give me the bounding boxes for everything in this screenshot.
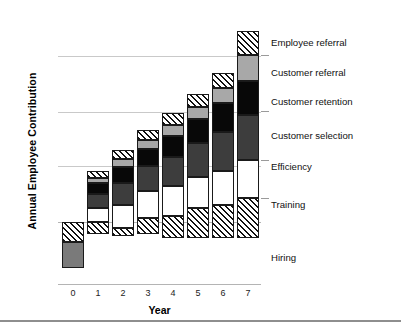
legend-label-customer-referral: Customer referral (271, 67, 346, 78)
x-tick-1: 1 (86, 288, 110, 298)
segment-employee-referral[interactable] (237, 31, 259, 55)
segment-training[interactable] (187, 208, 209, 238)
segment-customer-retention[interactable] (87, 183, 109, 194)
segment-customer-retention[interactable] (237, 81, 259, 115)
x-tick-5: 5 (186, 288, 210, 298)
segment-training[interactable] (112, 228, 134, 236)
gridline-1 (58, 56, 261, 57)
x-tick-4: 4 (161, 288, 185, 298)
segment-customer-selection[interactable] (162, 157, 184, 186)
segment-efficiency[interactable] (87, 208, 109, 222)
segment-efficiency[interactable] (237, 160, 259, 198)
leader-line-training (261, 198, 269, 199)
segment-employee-referral[interactable] (87, 171, 109, 178)
x-tick-3: 3 (136, 288, 160, 298)
legend-label-employee-referral: Employee referral (271, 37, 347, 48)
segment-training[interactable] (162, 216, 184, 238)
segment-training[interactable] (237, 198, 259, 238)
leader-line-customer-selection (261, 111, 269, 112)
plot-area: 0 1 2 3 4 5 6 7 Year (58, 20, 261, 302)
segment-training[interactable] (62, 222, 84, 242)
segment-customer-referral[interactable] (112, 159, 134, 167)
segment-customer-retention[interactable] (137, 149, 159, 166)
legend-label-efficiency: Efficiency (271, 161, 312, 172)
legend-label-customer-selection: Customer selection (271, 130, 353, 141)
bottom-rule (0, 320, 401, 322)
x-tick-7: 7 (236, 288, 260, 298)
segment-employee-referral[interactable] (137, 130, 159, 140)
segment-customer-retention[interactable] (112, 167, 134, 183)
leader-line-efficiency (261, 160, 269, 161)
segment-customer-selection[interactable] (137, 166, 159, 191)
segment-customer-selection[interactable] (87, 194, 109, 208)
legend-label-training: Training (271, 199, 305, 210)
chart-canvas: Annual Employee Contribution (0, 0, 401, 336)
segment-customer-referral[interactable] (212, 88, 234, 103)
segment-efficiency[interactable] (212, 171, 234, 205)
segment-training[interactable] (212, 205, 234, 238)
x-tick-0: 0 (61, 288, 85, 298)
leader-line-customer-referral (261, 55, 269, 56)
legend-label-hiring: Hiring (271, 252, 296, 263)
segment-employee-referral[interactable] (212, 73, 234, 88)
segment-customer-selection[interactable] (212, 132, 234, 171)
x-tick-6: 6 (211, 288, 235, 298)
segment-employee-referral[interactable] (112, 150, 134, 159)
segment-customer-referral[interactable] (187, 107, 209, 119)
segment-customer-retention[interactable] (162, 136, 184, 157)
segment-customer-retention[interactable] (212, 103, 234, 132)
x-axis-line (58, 284, 261, 285)
segment-customer-referral[interactable] (137, 140, 159, 149)
segment-efficiency[interactable] (112, 205, 134, 228)
segment-training[interactable] (87, 222, 109, 234)
segment-customer-selection[interactable] (237, 115, 259, 160)
segment-employee-referral[interactable] (187, 94, 209, 107)
x-tick-2: 2 (111, 288, 135, 298)
segment-efficiency[interactable] (187, 177, 209, 208)
segment-customer-selection[interactable] (187, 143, 209, 177)
segment-efficiency[interactable] (137, 191, 159, 218)
segment-customer-referral[interactable] (237, 55, 259, 81)
x-axis-title: Year (58, 304, 261, 316)
y-axis-title: Annual Employee Contribution (26, 56, 38, 246)
segment-customer-referral[interactable] (162, 125, 184, 136)
segment-training[interactable] (137, 218, 159, 234)
segment-customer-retention[interactable] (187, 119, 209, 143)
segment-employee-referral[interactable] (162, 113, 184, 125)
legend-label-customer-retention: Customer retention (271, 96, 353, 107)
segment-hiring[interactable] (62, 242, 84, 268)
segment-efficiency[interactable] (162, 186, 184, 216)
segment-customer-selection[interactable] (112, 183, 134, 205)
